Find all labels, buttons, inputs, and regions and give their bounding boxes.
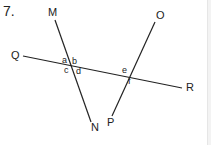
point-label-q: Q: [11, 50, 20, 61]
geometry-diagram: 7. M N O P Q R a b c d e f: [0, 0, 211, 145]
point-label-p: P: [107, 117, 114, 128]
angle-label-a: a: [62, 56, 67, 65]
angle-label-d: d: [76, 67, 81, 76]
angle-label-f: f: [128, 77, 131, 86]
angle-label-b: b: [72, 57, 77, 66]
point-label-m: M: [48, 7, 57, 18]
line-op: [112, 22, 155, 116]
angle-label-e: e: [122, 66, 127, 75]
question-number: 7.: [3, 4, 15, 18]
angle-label-c: c: [64, 66, 69, 75]
lines-canvas: [0, 0, 211, 145]
point-label-o: O: [156, 10, 165, 21]
line-mn: [55, 20, 91, 122]
point-label-n: N: [91, 122, 99, 133]
point-label-r: R: [186, 82, 194, 93]
page-edge: [207, 0, 211, 145]
line-qr: [23, 56, 182, 88]
